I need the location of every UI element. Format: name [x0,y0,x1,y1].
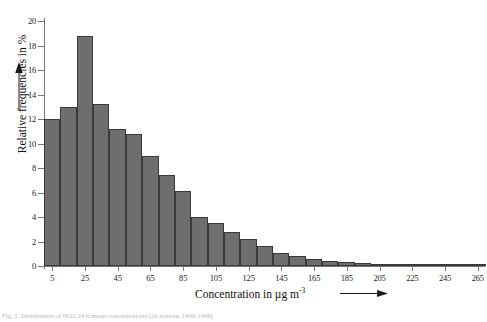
histogram-bar [240,239,256,266]
x-axis-tick [183,266,184,271]
x-axis-tick [216,266,217,271]
x-axis-tick-label: 165 [302,273,326,283]
x-axis-tick [52,266,53,271]
histogram-bars [44,21,486,266]
x-axis-title-text: Concentration in µg m [195,288,299,300]
histogram-bar [60,107,76,266]
histogram-bar [306,259,322,266]
histogram-bar [257,246,273,266]
histogram-bar [289,256,305,266]
histogram-bar [77,36,93,266]
x-axis-title: Concentration in µg m-3 [195,286,305,300]
x-axis-tick-label: 245 [433,273,457,283]
x-axis-tick [478,266,479,271]
histogram-bar [93,104,109,266]
histogram-bar [175,191,191,266]
y-axis-tick-label: 0 [22,261,36,271]
histogram-bar [44,119,60,266]
x-axis-tick-label: 25 [73,273,97,283]
x-axis-tick [380,266,381,271]
x-axis-tick-label: 265 [466,273,487,283]
x-axis-tick-label: 85 [171,273,195,283]
x-axis-tick [314,266,315,271]
x-axis-tick-label: 105 [204,273,228,283]
histogram-bar [273,253,289,266]
x-axis-tick [249,266,250,271]
y-axis-arrow-icon [13,62,25,110]
y-axis-tick-label: 4 [22,212,36,222]
histogram-bar [208,223,224,266]
y-axis-tick-label: 6 [22,188,36,198]
x-axis-tick-label: 225 [400,273,424,283]
histogram-bar [142,156,158,266]
x-axis-tick-label: 45 [106,273,130,283]
histogram-bar [126,134,142,266]
x-axis-title-exponent: -3 [299,286,305,295]
plot-area [44,21,486,266]
histogram-bar [191,217,207,266]
x-axis-tick [412,266,413,271]
histogram-figure: 02468101214161820 Relative frequencies i… [0,0,487,322]
x-axis-tick [445,266,446,271]
x-axis-tick-label: 205 [368,273,392,283]
x-axis-line [44,266,485,267]
histogram-bar [159,175,175,266]
x-axis-tick [150,266,151,271]
x-axis-tick-label: 125 [237,273,261,283]
x-axis-tick-label: 145 [269,273,293,283]
x-axis-tick [118,266,119,271]
x-axis-tick [347,266,348,271]
histogram-bar [224,232,240,266]
x-axis-tick-label: 65 [138,273,162,283]
x-axis-tick [85,266,86,271]
x-axis-arrow-icon [340,288,388,299]
x-axis-tick-label: 185 [335,273,359,283]
histogram-bar [109,129,125,266]
y-axis-tick-label: 2 [22,237,36,247]
figure-caption: Fig. 1. Distribution of NO2 24 h mean co… [2,312,213,320]
x-axis-tick [281,266,282,271]
x-axis-tick-label: 5 [40,273,64,283]
